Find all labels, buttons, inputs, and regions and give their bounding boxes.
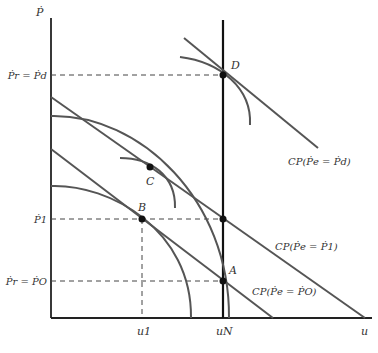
y-axis-label: Ṗ — [35, 5, 44, 19]
x-tick-u1: u1 — [137, 325, 151, 338]
x-tick-un: uN — [216, 325, 233, 338]
y-tick-p1: Ṗ1 — [33, 214, 47, 225]
point-a — [220, 278, 227, 285]
phillips-curve-diagram: Ṗ u Ṗr = Ṗd Ṗ1 Ṗr = ṖO u1 uN A B C D CP(… — [0, 0, 378, 353]
label-d: D — [230, 59, 240, 72]
label-cp-pd: CP(Ṗe = Ṗd) — [288, 156, 351, 167]
label-a: A — [228, 264, 237, 277]
inner-curve — [51, 186, 191, 318]
point-p1-un — [220, 216, 227, 223]
point-d — [220, 72, 227, 79]
point-b — [139, 216, 146, 223]
x-axis-label: u — [361, 325, 368, 338]
y-tick-po: Ṗr = ṖO — [5, 276, 47, 287]
label-c: C — [146, 175, 155, 188]
label-cp-p1: CP(Ṗe = Ṗ1) — [275, 241, 338, 252]
label-cp-po: CP(Ṗe = ṖO) — [252, 286, 317, 297]
label-b: B — [137, 201, 146, 214]
point-c — [147, 164, 154, 171]
cp-line-pd — [184, 38, 318, 148]
cp-line-p1 — [51, 97, 365, 318]
y-tick-pd: Ṗr = Ṗd — [7, 70, 47, 81]
